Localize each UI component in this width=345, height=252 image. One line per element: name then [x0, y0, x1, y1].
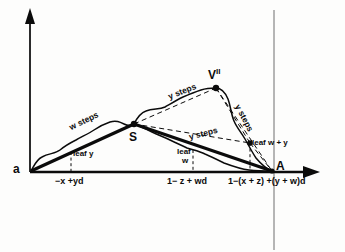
- node-label-S: S: [129, 131, 137, 143]
- horizontal-axis-arrow-icon: [303, 166, 320, 178]
- annotation-leaf-w-plus-y: leaf w + y: [252, 139, 288, 147]
- node-dot-Vpp: [213, 85, 219, 91]
- node-label-Vpp-base: V: [208, 68, 216, 82]
- vertical-axis-arrow-icon: [25, 8, 35, 24]
- node-dot-S: [131, 121, 137, 127]
- diagram-figure: a S VII A −x +yd 1− z + wd 1−(x + z) +(y…: [0, 0, 345, 252]
- node-label-A: A: [276, 160, 285, 172]
- node-label-Vpp: VII: [208, 68, 220, 81]
- diagram-canvas: [0, 0, 345, 252]
- node-label-a: a: [13, 163, 20, 175]
- axis-tick-label-mid: 1− z + wd: [167, 177, 207, 186]
- axis-tick-label-left: −x +yd: [55, 177, 84, 186]
- annotation-leaf-w-line1: leaf: [177, 148, 191, 156]
- node-label-Vpp-superscript: II: [216, 67, 220, 76]
- segment-a-to-S: [31, 124, 134, 171]
- annotation-leaf-y: leaf y: [73, 150, 93, 158]
- node-dot-A: [269, 168, 274, 173]
- annotation-leaf-w-line2: w: [182, 157, 188, 165]
- axis-tick-label-right: 1−(x + z) +(y + w)d: [228, 177, 306, 186]
